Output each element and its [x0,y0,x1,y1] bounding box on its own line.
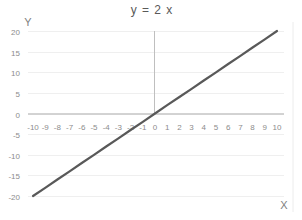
y-tick-label: 0 [16,111,21,120]
y-tick-label: -10 [8,152,20,161]
chart-title: y = 2 x [131,3,174,17]
x-tick-label: -7 [66,123,74,132]
x-tick-label: 1 [165,123,170,132]
y-tick-label: -5 [13,131,21,140]
x-tick-label: -4 [103,123,111,132]
x-tick-label: -8 [54,123,62,132]
x-tick-label: -9 [42,123,50,132]
x-tick-label: 5 [214,123,219,132]
y-axis-label: Y [24,16,32,28]
x-tick-label: 3 [189,123,194,132]
x-tick-label: 9 [263,123,268,132]
x-tick-label: 7 [238,123,243,132]
y-tick-label: -15 [8,172,20,181]
y-tick-label: 15 [11,49,20,58]
x-tick-label: -10 [27,123,39,132]
x-tick-label: -3 [115,123,123,132]
y-tick-label: 20 [11,28,20,37]
x-tick-label: 0 [153,123,158,132]
x-tick-label: 6 [226,123,231,132]
x-tick-label: 10 [273,123,282,132]
x-tick-label: 4 [202,123,207,132]
y-tick-label: -20 [8,193,20,202]
y-tick-label: 5 [16,90,21,99]
y-tick-label: 10 [11,69,20,78]
x-tick-label: -6 [78,123,86,132]
x-tick-label: -5 [90,123,98,132]
line-chart: y = 2 x Y X 20151050-5-10-15-20 -10-9-8-… [0,0,302,220]
x-tick-label: 2 [177,123,182,132]
x-axis-label: X [280,199,288,211]
x-tick-label: 8 [250,123,255,132]
